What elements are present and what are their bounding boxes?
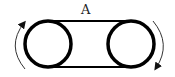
left-pulley [25, 21, 71, 67]
pulley-belt-diagram: A [0, 0, 175, 77]
right-pulley [108, 21, 154, 67]
belt-label: A [81, 3, 90, 16]
